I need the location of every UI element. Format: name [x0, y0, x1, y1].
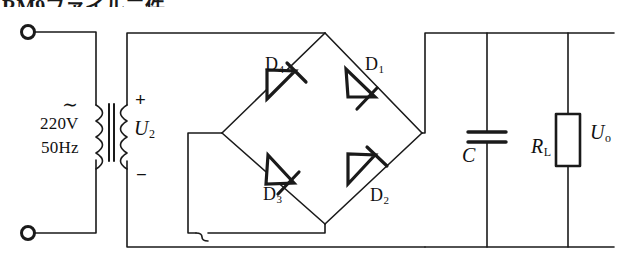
- bridge-arm-top-right: [325, 33, 422, 133]
- transformer-secondary-coil: [121, 105, 128, 169]
- secondary-voltage-label: U2: [134, 118, 155, 140]
- load-resistor-body: [556, 114, 580, 166]
- diode-label-D2-subscript: 2: [384, 194, 390, 206]
- output-voltage-subscript: o: [605, 131, 611, 145]
- transformer-primary-coil: [96, 105, 103, 169]
- diode-D2-symbol: [348, 147, 387, 184]
- circuit-schematic-svg: [0, 0, 626, 263]
- diode-label-D1-subscript: 1: [379, 63, 385, 75]
- secondary-voltage-symbol: U: [134, 117, 148, 139]
- secondary-voltage-subscript: 2: [149, 127, 155, 141]
- bridge-arm-bottom-right: [325, 133, 422, 224]
- secondary-polarity-plus: +: [135, 90, 146, 109]
- wire-output-positive-rail: [422, 33, 614, 133]
- wire-bridge-bottom-node-to-left: [208, 224, 325, 233]
- diode-label-D2-letter: D: [370, 185, 383, 205]
- wire-bridge-left-node-down: [188, 133, 222, 233]
- diode-label-D3-letter: D: [263, 184, 276, 204]
- diode-label-D1-letter: D: [365, 54, 378, 74]
- diode-label-D4-letter: D: [265, 54, 278, 74]
- input-terminal-top: [22, 26, 35, 39]
- load-resistor-label: RL: [531, 136, 551, 158]
- ac-source-symbol: ∼: [62, 95, 78, 114]
- diode-label-D4: D4: [265, 55, 284, 75]
- source-frequency-label: 50Hz: [41, 139, 79, 156]
- diode-label-D3: D3: [263, 185, 282, 205]
- secondary-polarity-minus: −: [136, 165, 147, 184]
- output-voltage-symbol: U: [590, 121, 604, 143]
- circuit-diagram-figure: RM9ファイル二件: [0, 0, 626, 263]
- diode-label-D1: D1: [365, 55, 384, 75]
- output-voltage-label: Uo: [590, 122, 611, 144]
- capacitor-label: C: [462, 145, 475, 165]
- input-terminal-bottom: [22, 227, 35, 240]
- load-resistor-subscript: L: [544, 145, 551, 159]
- source-voltage-label: 220V: [40, 115, 79, 132]
- diode-label-D3-subscript: 3: [277, 193, 283, 205]
- diode-label-D4-subscript: 4: [279, 63, 285, 75]
- wire-secondary-top-to-bridge-top: [127, 33, 325, 105]
- wire-primary-bottom: [35, 160, 97, 233]
- diode-label-D2: D2: [370, 186, 389, 206]
- load-resistor-symbol: R: [531, 135, 543, 157]
- wire-crossover-hop: [196, 233, 208, 241]
